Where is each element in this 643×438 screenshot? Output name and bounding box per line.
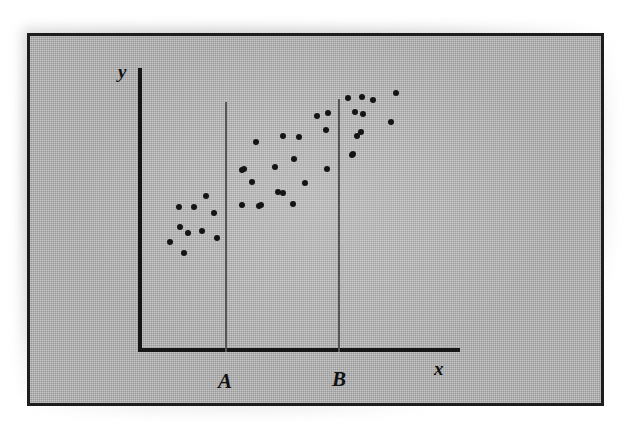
data-point [388, 119, 394, 125]
data-point [176, 204, 182, 210]
data-point [314, 113, 320, 119]
reference-line-b [338, 99, 340, 352]
data-point [258, 202, 264, 208]
data-point [296, 134, 302, 140]
data-point [323, 127, 329, 133]
data-point [393, 90, 399, 96]
data-point [167, 239, 173, 245]
data-point [239, 202, 245, 208]
data-point [350, 151, 356, 157]
data-point [253, 139, 259, 145]
figure-frame: y x A B [27, 33, 604, 406]
data-point [185, 230, 191, 236]
data-point [211, 210, 217, 216]
data-point [177, 224, 183, 230]
data-point [203, 193, 209, 199]
data-point [352, 109, 358, 115]
data-point [181, 250, 187, 256]
data-point [249, 179, 255, 185]
data-point [324, 166, 330, 172]
y-axis-label: y [118, 62, 126, 81]
data-point [325, 110, 331, 116]
data-point [191, 204, 197, 210]
reference-line-a [225, 102, 227, 352]
data-point [360, 111, 366, 117]
y-axis-line [138, 68, 142, 350]
reference-line-a-label: A [218, 371, 232, 392]
data-point [199, 228, 205, 234]
data-point [359, 94, 365, 100]
data-point [291, 156, 297, 162]
data-point [280, 133, 286, 139]
data-point [241, 166, 247, 172]
figure-page: y x A B [0, 0, 643, 438]
x-axis-line [138, 348, 460, 352]
data-point [370, 97, 376, 103]
reference-line-b-label: B [332, 369, 346, 390]
x-axis-label: x [434, 359, 444, 378]
data-point [290, 201, 296, 207]
data-point [302, 180, 308, 186]
data-point [280, 190, 286, 196]
data-point [272, 164, 278, 170]
data-point [358, 129, 364, 135]
scatter-plot-area: y x A B [30, 36, 604, 406]
data-point [345, 95, 351, 101]
data-point [214, 235, 220, 241]
